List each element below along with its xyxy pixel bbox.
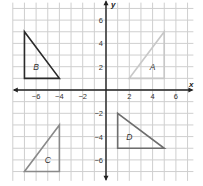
y-tick-label: 6 [99, 16, 103, 25]
y-tick-label: −4 [94, 133, 103, 142]
triangle-label-a: A [149, 62, 156, 72]
x-tick-label: −6 [32, 92, 41, 101]
x-tick-label: −4 [55, 92, 64, 101]
axes: xy [13, 0, 194, 181]
x-tick-label: 2 [127, 92, 131, 101]
x-tick-label: 6 [174, 92, 178, 101]
x-tick-label: 4 [151, 92, 155, 101]
y-axis-label: y [110, 0, 116, 9]
triangle-label-c: C [45, 155, 52, 165]
y-tick-label: 4 [99, 39, 103, 48]
y-axis-arrow-up-icon [104, 0, 109, 5]
triangle-label-d: D [126, 132, 132, 142]
y-tick-label: 2 [99, 63, 103, 72]
y-tick-label: −6 [94, 156, 103, 165]
x-axis-label: x [188, 80, 194, 89]
triangle-label-b: B [33, 62, 39, 72]
x-tick-label: −2 [78, 92, 87, 101]
y-axis-arrow-down-icon [104, 176, 109, 181]
y-tick-label: −2 [94, 109, 103, 118]
x-axis-arrow-left-icon [13, 88, 18, 93]
coordinate-plane: xy −6−4−2246642−2−4−6 ABCD [0, 0, 203, 186]
